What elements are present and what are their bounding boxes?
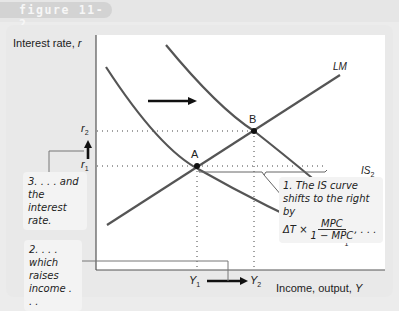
note3-line3: rate. [28, 214, 82, 227]
note3-line2: the interest [28, 188, 82, 214]
point-b-label: B [249, 113, 256, 125]
note1-numerator: MPC [318, 218, 346, 230]
tick-y1-sub: 1 [196, 281, 200, 288]
note1-suffix: , . . . [354, 223, 376, 236]
note2-line2: raises [29, 269, 77, 282]
x-axis-var: Y [355, 282, 362, 294]
lm-label: LM [333, 61, 347, 72]
note2-line1: 2. . . . which [29, 243, 77, 269]
note1-denominator: 1 − MPC [311, 230, 354, 241]
y-rise-arrow-head [240, 277, 248, 285]
note3-connector [49, 151, 84, 172]
note1-prefix: ΔT × [283, 223, 308, 236]
note1-fraction: MPC 1 − MPC [311, 218, 354, 241]
note1-line1: 1. The IS curve [283, 179, 379, 192]
y-axis-label: Interest rate, r [13, 37, 81, 49]
y-axis-var: r [78, 37, 82, 49]
tick-r1: r1 [81, 158, 89, 172]
x-axis-label: Income, output, Y [276, 282, 362, 294]
tick-y2-sub: 2 [257, 281, 261, 288]
tick-r2-sub: 2 [85, 129, 89, 136]
note-raises-income: 2. . . . which raises income . . . [24, 240, 82, 311]
tick-r1-sub: 1 [85, 165, 89, 172]
note2-line3: income . . . [29, 282, 77, 308]
note1-formula: ΔT × MPC 1 − MPC , . . . [283, 218, 379, 241]
tick-r2: r2 [81, 122, 89, 136]
note-is-shift: 1. The IS curve shifts to the right by Δ… [279, 177, 383, 243]
note3-line1: 3. . . . and [28, 175, 82, 188]
x-axis-label-text: Income, output, [276, 282, 355, 294]
tick-y2: Y2 [250, 274, 261, 288]
note-interest-rate: 3. . . . and the interest rate. [23, 172, 87, 230]
point-a-marker [194, 163, 200, 169]
tick-y1: Y1 [189, 274, 200, 288]
y-axis-label-text: Interest rate, [13, 37, 78, 49]
r-rise-arrow-head [84, 140, 92, 148]
point-b-marker [251, 128, 257, 134]
note1-line2: shifts to the right by [283, 192, 379, 218]
point-a-label: A [191, 148, 198, 160]
